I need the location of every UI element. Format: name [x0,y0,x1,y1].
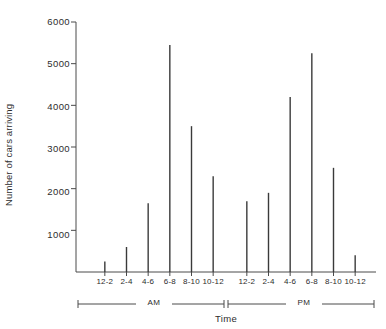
y-axis-ticks [71,22,76,230]
period-brackets [78,300,374,308]
period-label-pm: PM [286,298,322,307]
x-tick-label: 10-12 [341,277,369,286]
x-tick-label: 10-12 [199,277,227,286]
period-label-am: AM [136,298,172,307]
x-axis-title: Time [196,313,256,324]
bar-chart: Number of cars arriving 6000 5000 4000 3… [0,0,386,329]
bars-group [105,45,355,276]
